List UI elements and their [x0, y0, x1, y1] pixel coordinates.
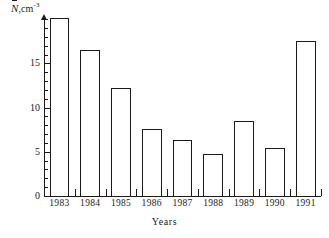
- y-axis-tick-label: 5: [35, 147, 40, 157]
- bar-1983: [50, 18, 70, 196]
- bar-1987: [173, 140, 193, 196]
- bar-1984: [80, 50, 100, 196]
- bar-1990: [265, 148, 285, 196]
- bar-1986: [142, 129, 162, 196]
- x-axis-tick-mark: [106, 189, 107, 196]
- bar-1991: [296, 41, 316, 196]
- x-axis-tick-mark: [229, 189, 230, 196]
- y-axis-minor-tick: [44, 37, 48, 38]
- y-axis-tick-label-wrap: 10: [0, 103, 40, 113]
- y-axis-tick-label-wrap: 0: [0, 191, 40, 201]
- bar-1989: [234, 121, 254, 196]
- y-axis-minor-tick: [44, 28, 48, 29]
- x-axis-tick-mark: [290, 189, 291, 196]
- bar-chart: N,cm-3 051015 19831984198519861987198819…: [0, 0, 329, 238]
- x-axis-tick-label-1990: 1990: [259, 199, 290, 209]
- y-axis-tick-label: 10: [30, 103, 40, 113]
- x-axis-tick-label-1987: 1987: [167, 199, 198, 209]
- y-axis-minor-tick: [44, 161, 48, 162]
- y-axis-minor-tick: [44, 46, 48, 47]
- x-axis-tick-label-1983: 1983: [44, 199, 75, 209]
- y-axis-minor-tick: [44, 90, 48, 91]
- y-axis-minor-tick: [44, 134, 48, 135]
- y-axis-minor-tick: [44, 143, 48, 144]
- x-axis-tick-mark: [321, 189, 322, 196]
- y-axis-minor-tick: [44, 19, 48, 20]
- y-axis-label: N,cm-3: [11, 2, 40, 14]
- x-axis-title: Years: [0, 216, 329, 227]
- y-axis-tick-label-wrap: 15: [0, 58, 40, 68]
- x-axis-line: [44, 196, 321, 197]
- y-axis-tick-label: 0: [35, 191, 40, 201]
- y-axis-minor-tick: [44, 81, 48, 82]
- x-axis-tick-label-1988: 1988: [198, 199, 229, 209]
- y-axis-minor-tick: [44, 178, 48, 179]
- y-axis-minor-tick: [44, 169, 48, 170]
- y-axis-minor-tick: [44, 125, 48, 126]
- y-axis-unit-exponent: -3: [33, 1, 39, 9]
- y-axis-minor-tick: [44, 55, 48, 56]
- x-axis-tick-label-1991: 1991: [290, 199, 321, 209]
- x-axis-tick-label-1986: 1986: [136, 199, 167, 209]
- y-axis-minor-tick: [44, 99, 48, 100]
- x-axis-tick-mark: [136, 189, 137, 196]
- x-axis-tick-label-1985: 1985: [106, 199, 137, 209]
- x-axis-tick-mark: [75, 189, 76, 196]
- x-axis-tick-mark: [44, 189, 45, 196]
- x-axis-tick-mark: [198, 189, 199, 196]
- y-axis-minor-tick: [44, 72, 48, 73]
- y-axis-minor-tick: [44, 187, 48, 188]
- x-axis-tick-mark: [259, 189, 260, 196]
- y-axis-minor-tick: [44, 116, 48, 117]
- y-axis-major-tick: [44, 196, 51, 197]
- y-axis-tick-label-wrap: 5: [0, 147, 40, 157]
- bar-1988: [203, 154, 223, 196]
- y-axis-unit: cm: [21, 3, 33, 14]
- x-axis-tick-label-1989: 1989: [229, 199, 260, 209]
- y-axis-tick-label: 15: [30, 58, 40, 68]
- y-axis-symbol: N: [11, 2, 18, 14]
- x-axis-tick-mark: [167, 189, 168, 196]
- bar-1985: [111, 88, 131, 196]
- x-axis-tick-label-1984: 1984: [75, 199, 106, 209]
